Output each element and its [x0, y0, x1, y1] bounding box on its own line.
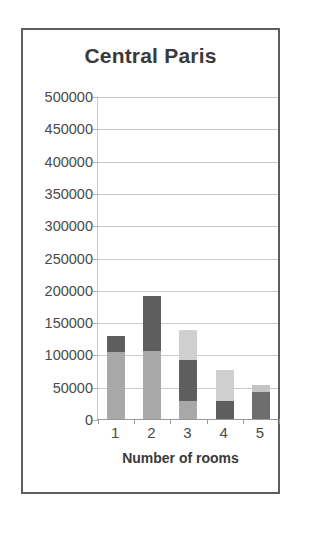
value-axis-tick-label: 150000 — [25, 315, 93, 331]
bar-segment[interactable] — [179, 330, 197, 360]
value-axis-tick-mark — [93, 97, 98, 98]
bar-segment[interactable] — [143, 296, 161, 351]
bar-segment[interactable] — [179, 401, 197, 420]
value-axis-tick-label: 450000 — [25, 121, 93, 137]
value-axis-tick-label: 350000 — [25, 186, 93, 202]
plot-area — [97, 97, 278, 420]
bar-slot[interactable] — [243, 97, 279, 420]
bar-group — [98, 97, 278, 420]
value-axis-tick-mark — [93, 420, 98, 421]
value-axis-tick-label: 200000 — [25, 283, 93, 299]
category-axis-tick-label: 3 — [183, 424, 191, 441]
bar-segment[interactable] — [216, 401, 234, 420]
stacked-bar[interactable] — [143, 296, 161, 420]
stacked-bar[interactable] — [107, 336, 125, 420]
category-axis-tick-label: 1 — [111, 424, 119, 441]
bar-slot[interactable] — [207, 97, 243, 420]
bar-segment[interactable] — [252, 392, 270, 420]
value-axis-tick-label: 500000 — [25, 89, 93, 105]
value-axis-tick-label: 50000 — [25, 380, 93, 396]
value-axis-tick-label: 0 — [25, 412, 93, 428]
bar-segment[interactable] — [143, 351, 161, 420]
stacked-bar[interactable] — [179, 330, 197, 420]
value-axis-tick-mark — [93, 162, 98, 163]
bar-slot[interactable] — [98, 97, 134, 420]
value-axis-tick-mark — [93, 129, 98, 130]
stacked-bar[interactable] — [252, 385, 270, 420]
chart-figure: Central Paris 50000045000040000035000030… — [21, 28, 280, 494]
value-axis-tick-mark — [93, 259, 98, 260]
plot-wrapper: 5000004500004000003500003000002500002000… — [23, 30, 278, 492]
stacked-bar[interactable] — [216, 370, 234, 420]
value-axis-tick-label: 400000 — [25, 154, 93, 170]
category-axis-tick-label: 2 — [147, 424, 155, 441]
category-axis-labels: 12345 — [97, 424, 278, 448]
value-axis-labels: 5000004500004000003500003000002500002000… — [23, 97, 93, 420]
bar-segment[interactable] — [216, 370, 234, 402]
value-axis-tick-mark — [93, 323, 98, 324]
bar-slot[interactable] — [170, 97, 206, 420]
category-axis-line — [97, 419, 278, 420]
bar-segment[interactable] — [107, 352, 125, 420]
value-axis-tick-mark — [93, 226, 98, 227]
x-axis-title: Number of rooms — [83, 450, 278, 466]
category-axis-tick-label: 5 — [256, 424, 264, 441]
bar-segment[interactable] — [107, 336, 125, 352]
value-axis-tick-label: 250000 — [25, 251, 93, 267]
value-axis-tick-mark — [93, 388, 98, 389]
bar-segment[interactable] — [179, 360, 197, 401]
category-axis-tick-mark — [279, 419, 280, 424]
value-axis-tick-label: 100000 — [25, 347, 93, 363]
bar-segment[interactable] — [252, 385, 270, 392]
bar-slot[interactable] — [134, 97, 170, 420]
value-axis-tick-mark — [93, 194, 98, 195]
value-axis-tick-mark — [93, 355, 98, 356]
category-axis-tick-label: 4 — [220, 424, 228, 441]
value-axis-tick-mark — [93, 291, 98, 292]
value-axis-tick-label: 300000 — [25, 218, 93, 234]
